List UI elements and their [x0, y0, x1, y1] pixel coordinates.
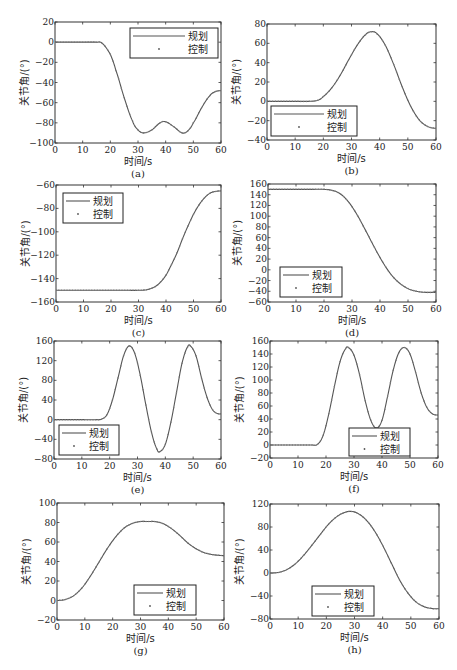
y-tick-label: −60 [248, 297, 267, 307]
legend: 规划控制 [63, 193, 123, 223]
subplot-f: 0102030405060−20020406080100120140160时间/… [233, 336, 444, 494]
subplot-caption: (e) [131, 484, 145, 495]
y-tick-label: −80 [35, 118, 54, 128]
x-tick-label: 50 [187, 461, 199, 471]
y-tick-label: 60 [45, 537, 57, 547]
x-tick-label: 10 [289, 142, 301, 152]
subplot-caption: (f) [348, 483, 360, 494]
x-tick-label: 30 [346, 304, 358, 314]
x-tick-label: 60 [433, 621, 445, 631]
legend-label-control: 控制 [89, 440, 109, 452]
y-axis-label: 关节角/(°) [19, 220, 31, 266]
y-tick-label: −40 [34, 434, 53, 444]
subplot-e: 0102030405060−80−4004080120160时间/s关节角/(°… [17, 336, 227, 495]
x-tick-label: 40 [374, 142, 386, 152]
x-tick-label: 50 [405, 621, 417, 631]
y-tick-label: 0 [263, 440, 269, 450]
y-tick-label: 80 [45, 518, 57, 528]
legend-dot-swatch [298, 126, 300, 128]
legend-label-planned: 规划 [188, 30, 208, 42]
subplot-caption: (g) [133, 645, 147, 656]
x-tick-label: 40 [376, 460, 388, 470]
figure: 0102030405060−100−80−60−40−20020时间/s关节角/… [0, 0, 457, 670]
legend-label-planned: 规划 [327, 108, 347, 120]
y-tick-label: 40 [255, 58, 267, 68]
y-tick-label: −60 [36, 180, 55, 190]
y-tick-label: 40 [42, 395, 54, 405]
y-tick-label: −60 [35, 98, 54, 108]
y-tick-label: −40 [248, 286, 267, 296]
y-tick-label: 40 [258, 545, 270, 555]
legend-label-planned: 规划 [312, 269, 332, 281]
legend: 规划控制 [130, 28, 218, 58]
x-axis-label: 时间/s [123, 471, 152, 483]
y-tick-label: 0 [48, 37, 54, 47]
y-tick-label: 60 [258, 401, 270, 411]
subplot-g: 0102030405060−20020406080100时间/s关节角/(°)(… [20, 498, 230, 656]
legend-dot-swatch [158, 48, 160, 50]
y-tick-label: 140 [250, 190, 267, 200]
legend-dot-swatch [73, 445, 75, 447]
y-tick-label: 100 [252, 375, 269, 385]
y-tick-label: 140 [252, 349, 269, 359]
x-tick-label: 50 [190, 622, 202, 632]
subplot-caption: (a) [131, 168, 145, 179]
legend-label-planned: 规划 [344, 588, 364, 600]
x-axis-label: 时间/s [124, 314, 153, 326]
x-tick-label: 10 [292, 460, 304, 470]
x-tick-label: 30 [349, 621, 361, 631]
y-tick-label: 120 [252, 499, 269, 509]
legend-label-planned: 规划 [166, 587, 186, 599]
y-tick-label: −40 [35, 78, 54, 88]
legend: 规划控制 [134, 585, 196, 615]
y-tick-label: −160 [30, 297, 55, 307]
y-tick-label: 120 [250, 200, 267, 210]
y-tick-label: 160 [36, 336, 53, 346]
y-tick-label: −80 [36, 203, 55, 213]
legend-label-control: 控制 [166, 600, 186, 612]
y-tick-label: 160 [250, 179, 267, 189]
x-tick-label: 20 [105, 145, 117, 155]
x-axis-label: 时间/s [338, 314, 367, 326]
y-axis-label: 关节角/(°) [231, 220, 243, 266]
legend: 规划控制 [271, 106, 357, 136]
legend-label-control: 控制 [93, 208, 113, 220]
y-tick-label: −100 [30, 227, 55, 237]
y-tick-label: 60 [255, 38, 267, 48]
y-tick-label: 80 [42, 375, 54, 385]
y-tick-label: 20 [43, 17, 55, 27]
x-tick-label: 20 [318, 304, 330, 314]
x-tick-label: 60 [215, 145, 227, 155]
x-tick-label: 60 [218, 622, 230, 632]
y-axis-label: 关节角/(°) [233, 376, 245, 422]
y-tick-label: 80 [255, 19, 267, 29]
legend: 规划控制 [59, 425, 119, 455]
y-tick-label: −20 [248, 276, 267, 286]
y-tick-label: 40 [258, 414, 270, 424]
y-tick-label: 100 [250, 211, 267, 221]
x-tick-label: 40 [377, 621, 389, 631]
x-tick-label: 40 [160, 461, 172, 471]
y-tick-label: −140 [30, 274, 55, 284]
subplot-h: 0102030405060−80−4004080120时间/s关节角/(°)(h… [233, 499, 445, 655]
x-axis-label: 时间/s [340, 470, 369, 482]
x-tick-label: 50 [188, 304, 200, 314]
y-tick-label: 0 [263, 568, 269, 578]
x-tick-label: 10 [290, 304, 302, 314]
y-tick-label: −20 [37, 615, 56, 625]
legend-label-planned: 规划 [380, 430, 400, 442]
x-tick-label: 50 [402, 304, 414, 314]
x-tick-label: 40 [160, 145, 172, 155]
y-tick-label: 160 [252, 336, 269, 346]
y-tick-label: 100 [39, 498, 56, 508]
y-tick-label: −40 [247, 135, 266, 145]
x-tick-label: 20 [104, 461, 116, 471]
x-tick-label: 50 [402, 142, 414, 152]
x-axis-label: 时间/s [126, 632, 155, 644]
x-tick-label: 40 [160, 304, 172, 314]
legend-dot-swatch [364, 448, 366, 450]
x-tick-label: 40 [163, 622, 175, 632]
y-axis-label: 关节角/(°) [17, 377, 29, 423]
y-axis-label: 关节角/(°) [18, 59, 30, 105]
y-tick-label: 0 [50, 596, 56, 606]
